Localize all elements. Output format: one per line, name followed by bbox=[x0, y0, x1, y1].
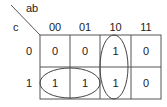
col-header: 10 bbox=[100, 21, 131, 33]
kmap-cell: 1 bbox=[100, 35, 131, 67]
col-header: 01 bbox=[70, 21, 100, 33]
col-header: 11 bbox=[131, 21, 161, 33]
row-header: 0 bbox=[26, 45, 32, 57]
kmap-cell: 1 bbox=[40, 67, 70, 99]
row-var-label: c bbox=[13, 21, 19, 33]
kmap-cell: 1 bbox=[70, 67, 100, 99]
kmap-cell: 1 bbox=[100, 67, 131, 99]
kmap-cell: 0 bbox=[70, 35, 100, 67]
col-var-label: ab bbox=[26, 2, 38, 14]
row-header: 1 bbox=[26, 77, 32, 89]
col-header: 00 bbox=[40, 21, 70, 33]
kmap-cell: 0 bbox=[131, 67, 161, 99]
kmap-cell: 0 bbox=[40, 35, 70, 67]
kmap-cell: 0 bbox=[131, 35, 161, 67]
